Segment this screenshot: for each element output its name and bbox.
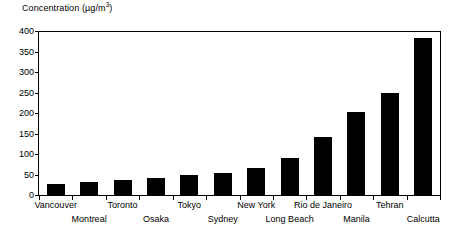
x-tick-label: Montreal bbox=[72, 214, 107, 225]
bar[interactable] bbox=[180, 175, 198, 196]
x-tick-label: Sydney bbox=[208, 214, 238, 225]
x-axis-labels: VancouverMontrealTorontoOsakaTokyoSydney… bbox=[0, 200, 458, 234]
bar[interactable] bbox=[281, 158, 299, 196]
bar-slot bbox=[139, 32, 172, 196]
y-axis-title-text: Concentration (µg/m bbox=[22, 3, 106, 13]
bar[interactable] bbox=[381, 93, 399, 196]
y-tick-label: 350 bbox=[0, 47, 34, 56]
bar[interactable] bbox=[414, 38, 432, 196]
bar-slot bbox=[340, 32, 373, 196]
x-tick-label: New York bbox=[237, 200, 275, 211]
x-tick-label: Long Beach bbox=[266, 214, 314, 225]
bar[interactable] bbox=[214, 173, 232, 196]
y-tick-label: 0 bbox=[0, 191, 34, 200]
x-tick-label: Tokyo bbox=[178, 200, 202, 211]
bar-slot bbox=[106, 32, 139, 196]
y-axis-title-suffix: ) bbox=[109, 3, 112, 13]
bar[interactable] bbox=[80, 182, 98, 196]
bar[interactable] bbox=[314, 137, 332, 196]
bar-slot bbox=[173, 32, 206, 196]
bar-chart: Concentration (µg/m3) 050100150200250300… bbox=[0, 0, 458, 235]
x-tick-label: Tehran bbox=[376, 200, 404, 211]
y-tick-label: 150 bbox=[0, 129, 34, 138]
y-tick-label: 400 bbox=[0, 27, 34, 36]
y-axis-title: Concentration (µg/m3) bbox=[22, 3, 112, 14]
bar[interactable] bbox=[114, 180, 132, 196]
bar-slot bbox=[240, 32, 273, 196]
y-tick-label: 250 bbox=[0, 88, 34, 97]
bar[interactable] bbox=[347, 112, 365, 196]
x-tick-label: Rio de Janeiro bbox=[294, 200, 352, 211]
bar-slot bbox=[373, 32, 406, 196]
x-tick-label: Calcutta bbox=[407, 214, 440, 225]
x-tick-label: Vancouver bbox=[35, 200, 77, 211]
bar-slot bbox=[39, 32, 72, 196]
y-tick-label: 200 bbox=[0, 109, 34, 118]
bar[interactable] bbox=[247, 168, 265, 196]
bar[interactable] bbox=[147, 178, 165, 196]
bar-slot bbox=[306, 32, 339, 196]
bar-slot bbox=[273, 32, 306, 196]
bars-layer bbox=[39, 32, 440, 196]
bar-slot bbox=[72, 32, 105, 196]
bar-slot bbox=[206, 32, 239, 196]
y-tick-label: 50 bbox=[0, 170, 34, 179]
bar[interactable] bbox=[47, 184, 65, 196]
x-tick-label: Toronto bbox=[108, 200, 138, 211]
y-axis-labels: 050100150200250300350400 bbox=[0, 31, 34, 196]
y-tick-label: 300 bbox=[0, 68, 34, 77]
x-tick-label: Osaka bbox=[143, 214, 169, 225]
bar-slot bbox=[407, 32, 440, 196]
x-tick-label: Manila bbox=[343, 214, 370, 225]
y-tick-label: 100 bbox=[0, 150, 34, 159]
